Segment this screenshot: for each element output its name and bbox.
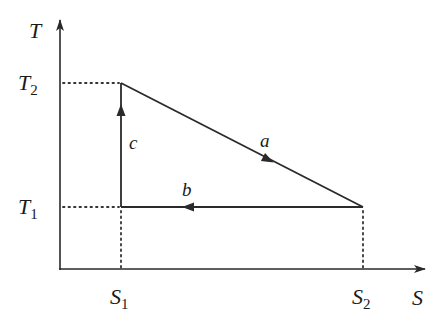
process-a-label: a (260, 131, 270, 150)
process-b-arrow-icon (182, 203, 194, 212)
cycle (121, 83, 363, 207)
s-axis-label: S (412, 287, 423, 309)
t1-label: T1 (18, 196, 38, 222)
t2-label: T2 (18, 72, 38, 98)
ts-diagram (0, 0, 444, 330)
guide-lines (63, 83, 363, 268)
s2-label: S2 (352, 286, 371, 312)
process-c-label: c (129, 133, 137, 152)
s1-label: S1 (110, 286, 129, 312)
process-b-label: b (182, 180, 192, 199)
process-a-line (121, 83, 363, 207)
process-c-arrow-icon (117, 104, 126, 116)
direction-arrows (117, 104, 276, 212)
t-axis-label: T (29, 20, 41, 42)
